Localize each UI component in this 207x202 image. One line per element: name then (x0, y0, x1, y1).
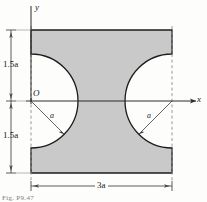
dimension-label-upper-height: 1.5a (3, 60, 18, 69)
radius-leader-right (139, 101, 173, 135)
origin-label: O (33, 89, 40, 98)
radius-leader-left (31, 101, 65, 135)
x-axis-label: x (197, 95, 201, 104)
figure-caption: Fig. P9.47 (2, 194, 92, 202)
radius-label-left: a (50, 112, 54, 120)
dimension-label-width: 3a (95, 181, 108, 190)
dimension-label-lower-height: 1.5a (3, 131, 18, 140)
cross-section-drawing (0, 0, 207, 202)
figure-container: y x O a a 1.5a 1.5a 3a Fig. P9.47 (0, 0, 207, 202)
radius-label-right: a (147, 112, 151, 120)
y-axis-label: y (35, 3, 39, 12)
